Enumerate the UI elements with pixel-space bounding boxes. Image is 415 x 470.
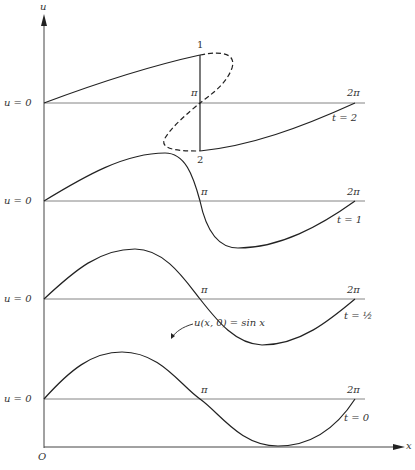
baseline-label-t1: u = 0 bbox=[4, 196, 32, 206]
two-pi-label-thalf: 2π bbox=[347, 285, 360, 295]
pi-label-t0: π bbox=[201, 385, 208, 395]
curve-thalf bbox=[44, 249, 355, 345]
pi-label-thalf: π bbox=[201, 285, 208, 295]
curve-t2-right bbox=[200, 103, 355, 151]
time-label-t2: t = 2 bbox=[332, 113, 357, 123]
u-axis-label: u bbox=[40, 2, 46, 12]
two-pi-label-t2: 2π bbox=[347, 88, 360, 98]
multivalued-dashed-curve bbox=[164, 53, 233, 151]
diagram-canvas bbox=[0, 0, 415, 470]
baseline-label-thalf: u = 0 bbox=[4, 294, 32, 304]
pi-label-t1: π bbox=[201, 187, 208, 197]
u-axis-arrow-icon bbox=[41, 14, 47, 26]
baseline-label-t2: u = 0 bbox=[4, 98, 32, 108]
time-label-t1: t = 1 bbox=[337, 215, 362, 225]
two-pi-label-t1: 2π bbox=[347, 187, 360, 197]
time-label-thalf: t = ½ bbox=[344, 311, 372, 321]
baseline-label-t0: u = 0 bbox=[4, 394, 32, 404]
curve-t1 bbox=[44, 153, 355, 248]
initial-condition-annotation: u(x, 0) = sin x bbox=[194, 318, 265, 328]
curve-t2-left bbox=[44, 55, 200, 103]
x-axis-label: x bbox=[406, 441, 412, 451]
origin-label: O bbox=[38, 452, 46, 462]
x-axis-arrow-icon bbox=[393, 444, 405, 450]
shock-bottom-label: 2 bbox=[197, 155, 203, 165]
pi-label-t2: π bbox=[191, 88, 198, 98]
shock-top-label: 1 bbox=[197, 40, 203, 50]
burgers-equation-figure: u x O u = 0 π 2π t = 2 1 2 u = 0 π 2π t … bbox=[0, 0, 415, 470]
time-label-t0: t = 0 bbox=[344, 413, 369, 423]
two-pi-label-t0: 2π bbox=[347, 385, 360, 395]
baselines bbox=[44, 103, 365, 399]
annotation-leader bbox=[172, 324, 193, 337]
